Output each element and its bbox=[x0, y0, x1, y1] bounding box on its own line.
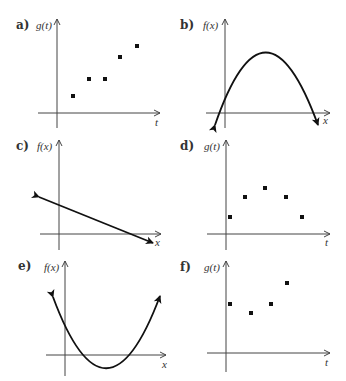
data-point bbox=[228, 302, 232, 306]
graphs-figure: a) g(t) t b) f(x) x c) f(x) x d) g(t) t bbox=[0, 0, 346, 381]
panel-label-e: e) bbox=[18, 259, 31, 273]
data-point bbox=[243, 195, 247, 199]
panel-b: b) f(x) x bbox=[180, 18, 330, 128]
y-axis-label-d: g(t) bbox=[204, 140, 220, 153]
parabola-curve-b bbox=[215, 53, 318, 126]
data-point bbox=[135, 44, 139, 48]
panel-f: f) g(t) t bbox=[180, 260, 330, 372]
y-axis-label-f: g(t) bbox=[204, 261, 220, 274]
panel-label-a: a) bbox=[16, 18, 29, 32]
data-point bbox=[71, 94, 75, 98]
panel-label-b: b) bbox=[180, 18, 194, 32]
y-axis-label-a: g(t) bbox=[36, 19, 52, 32]
x-axis-label-d: t bbox=[325, 236, 329, 248]
data-point bbox=[263, 186, 267, 190]
x-axis-label-c: x bbox=[154, 236, 160, 248]
data-point bbox=[284, 195, 288, 199]
y-axis-label-b: f(x) bbox=[203, 19, 219, 32]
panel-a: a) g(t) t bbox=[16, 18, 160, 128]
data-point bbox=[87, 77, 91, 81]
x-axis-label-a: t bbox=[155, 116, 159, 128]
panel-label-d: d) bbox=[180, 139, 194, 153]
panel-label-c: c) bbox=[16, 139, 29, 153]
parabola-curve-e bbox=[53, 296, 160, 368]
panel-d: d) g(t) t bbox=[180, 139, 330, 250]
y-axis-label-c: f(x) bbox=[37, 140, 53, 153]
line-curve-c bbox=[39, 197, 153, 243]
data-point bbox=[285, 281, 289, 285]
panel-e: e) f(x) x bbox=[18, 259, 167, 376]
data-point bbox=[228, 215, 232, 219]
y-axis-label-e: f(x) bbox=[44, 261, 60, 274]
panel-label-f: f) bbox=[180, 260, 191, 274]
data-point bbox=[249, 311, 253, 315]
data-point bbox=[269, 302, 273, 306]
data-point bbox=[103, 77, 107, 81]
panel-c: c) f(x) x bbox=[16, 139, 161, 250]
data-point bbox=[300, 215, 304, 219]
x-axis-label-e: x bbox=[161, 358, 167, 370]
data-point bbox=[118, 55, 122, 59]
x-axis-label-f: t bbox=[325, 356, 329, 368]
x-axis-label-b: x bbox=[322, 114, 328, 126]
